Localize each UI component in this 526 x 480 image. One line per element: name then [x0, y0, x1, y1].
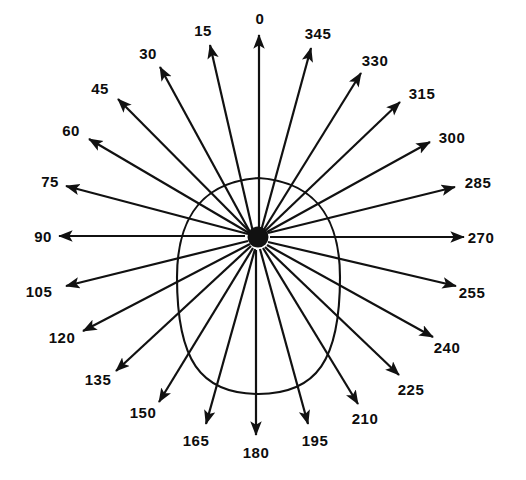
ray-label-315: 315 — [409, 86, 436, 101]
ray-arrow-345 — [261, 48, 311, 231]
ray-label-330: 330 — [362, 53, 389, 68]
ray-arrow-315 — [265, 102, 400, 231]
ray-arrow-135 — [116, 246, 251, 371]
ray-label-90: 90 — [34, 229, 52, 244]
ray-label-300: 300 — [439, 130, 466, 145]
ray-arrow-15 — [210, 45, 253, 232]
ray-label-180: 180 — [243, 445, 270, 460]
center-convergence-point — [248, 227, 269, 248]
ray-arrow-45 — [118, 99, 250, 232]
ray-label-255: 255 — [459, 285, 486, 300]
ray-label-195: 195 — [302, 433, 329, 448]
ray-arrow-195 — [260, 249, 308, 424]
ray-label-270: 270 — [468, 230, 495, 245]
ray-label-345: 345 — [305, 26, 332, 41]
ray-label-105: 105 — [26, 284, 53, 299]
ray-arrow-75 — [66, 186, 248, 234]
ray-label-165: 165 — [183, 433, 210, 448]
ray-arrow-105 — [66, 241, 248, 286]
ray-arrow-255 — [268, 242, 456, 286]
ray-label-210: 210 — [352, 411, 379, 426]
ray-label-240: 240 — [434, 340, 461, 355]
polar-direction-diagram: 0153045607590105120135150165180195210225… — [0, 0, 526, 480]
ray-label-0: 0 — [256, 11, 265, 26]
ray-label-75: 75 — [41, 174, 59, 189]
ray-arrow-240 — [267, 245, 433, 337]
ray-arrow-210 — [263, 248, 358, 404]
ray-label-225: 225 — [398, 382, 425, 397]
diagram-canvas — [0, 0, 526, 480]
ray-arrow-285 — [268, 187, 455, 233]
ray-label-135: 135 — [85, 372, 112, 387]
ray-label-150: 150 — [130, 405, 157, 420]
ray-label-45: 45 — [91, 81, 109, 96]
ray-arrow-165 — [206, 249, 255, 424]
ray-label-120: 120 — [49, 330, 76, 345]
ray-arrow-120 — [83, 244, 250, 331]
ray-label-30: 30 — [139, 46, 157, 61]
ray-label-285: 285 — [465, 175, 492, 190]
ray-label-15: 15 — [194, 23, 212, 38]
ray-arrow-225 — [265, 247, 399, 375]
ray-label-60: 60 — [62, 123, 80, 138]
